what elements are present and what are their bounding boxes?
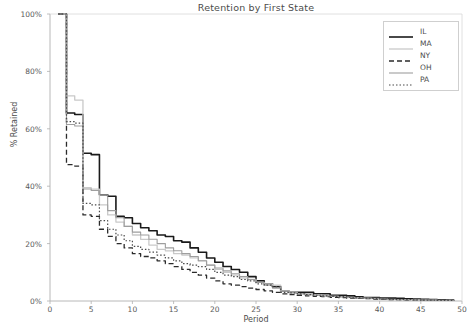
legend-swatch-ny: [388, 51, 414, 61]
y-tick-label: 60%: [8, 125, 42, 134]
legend-label-ny: NY: [420, 51, 430, 61]
x-axis-label: Period: [50, 315, 462, 324]
legend-label-ma: MA: [420, 39, 432, 49]
y-tick-label: 100%: [8, 10, 42, 19]
legend-item-il[interactable]: IL: [388, 26, 454, 38]
x-tick-label: 45: [407, 305, 435, 314]
legend-label-oh: OH: [420, 63, 432, 73]
legend-item-ma[interactable]: MA: [388, 38, 454, 50]
legend-item-pa[interactable]: PA: [388, 74, 454, 86]
x-tick-label: 50: [448, 305, 475, 314]
legend-swatch-ma: [388, 39, 414, 49]
y-tick-label: 40%: [8, 182, 42, 191]
legend-swatch-oh: [388, 63, 414, 73]
x-tick-label: 0: [36, 305, 64, 314]
legend-item-ny[interactable]: NY: [388, 50, 454, 62]
legend-item-oh[interactable]: OH: [388, 62, 454, 74]
y-tick-label: 20%: [8, 240, 42, 249]
x-tick-label: 20: [201, 305, 229, 314]
x-tick-label: 5: [77, 305, 105, 314]
x-tick-label: 15: [160, 305, 188, 314]
x-tick-label: 25: [242, 305, 270, 314]
x-tick-label: 40: [366, 305, 394, 314]
legend-label-pa: PA: [420, 75, 429, 85]
legend-label-il: IL: [420, 27, 426, 37]
legend-swatch-pa: [388, 75, 414, 85]
chart-legend: ILMANYOHPA: [383, 21, 459, 91]
chart-figure: Retention by First State % Retained Peri…: [0, 0, 475, 334]
x-tick-label: 10: [118, 305, 146, 314]
x-tick-label: 30: [283, 305, 311, 314]
y-tick-label: 80%: [8, 67, 42, 76]
x-tick-label: 35: [324, 305, 352, 314]
legend-swatch-il: [388, 27, 414, 37]
